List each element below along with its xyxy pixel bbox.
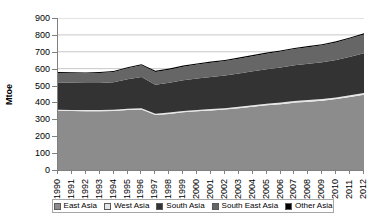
y-tick-mark bbox=[52, 136, 57, 137]
x-tick-mark bbox=[363, 170, 364, 174]
x-tick-mark bbox=[127, 170, 128, 174]
legend-item-south-asia[interactable]: South Asia bbox=[156, 202, 204, 210]
y-tick-mark bbox=[52, 86, 57, 87]
x-tick-mark bbox=[85, 170, 86, 174]
legend-item-other-asia[interactable]: Other Asia bbox=[285, 202, 332, 210]
y-tick-label: 100 bbox=[35, 148, 50, 158]
y-tick-mark bbox=[52, 69, 57, 70]
x-tick-mark bbox=[266, 170, 267, 174]
y-tick-mark bbox=[52, 153, 57, 154]
chart-container: Mtoe 9008007006005004003002001000 199019… bbox=[0, 0, 386, 221]
legend-label: South East Asia bbox=[222, 202, 278, 210]
y-tick-label: 0 bbox=[45, 165, 50, 175]
plot-area bbox=[57, 18, 364, 171]
legend-swatch-icon bbox=[285, 203, 292, 210]
y-tick-label: 800 bbox=[35, 30, 50, 40]
y-tick-mark bbox=[52, 102, 57, 103]
x-tick-mark bbox=[238, 170, 239, 174]
x-tick-mark bbox=[196, 170, 197, 174]
legend-swatch-icon bbox=[54, 203, 61, 210]
legend-swatch-icon bbox=[156, 203, 163, 210]
x-tick-mark bbox=[224, 170, 225, 174]
legend-label: Other Asia bbox=[295, 202, 332, 210]
y-tick-mark bbox=[52, 119, 57, 120]
x-tick-mark bbox=[280, 170, 281, 174]
x-tick-mark bbox=[182, 170, 183, 174]
y-tick-label: 200 bbox=[35, 131, 50, 141]
x-tick-mark bbox=[168, 170, 169, 174]
legend-label: South Asia bbox=[166, 202, 204, 210]
y-tick-label: 700 bbox=[35, 47, 50, 57]
x-tick-mark bbox=[210, 170, 211, 174]
y-tick-label: 500 bbox=[35, 81, 50, 91]
x-tick-mark bbox=[293, 170, 294, 174]
legend-item-south-east-asia[interactable]: South East Asia bbox=[212, 202, 278, 210]
x-tick-mark bbox=[335, 170, 336, 174]
y-tick-label: 300 bbox=[35, 114, 50, 124]
legend-swatch-icon bbox=[212, 203, 219, 210]
x-tick-mark bbox=[307, 170, 308, 174]
x-tick-mark bbox=[113, 170, 114, 174]
legend-item-east-asia[interactable]: East Asia bbox=[54, 202, 97, 210]
y-tick-mark bbox=[52, 18, 57, 19]
y-tick-label: 400 bbox=[35, 97, 50, 107]
x-tick-label: 2012 bbox=[358, 176, 368, 202]
y-tick-mark bbox=[52, 52, 57, 53]
x-tick-mark bbox=[321, 170, 322, 174]
legend-item-west-asia[interactable]: West Asia bbox=[104, 202, 149, 210]
y-axis-title: Mtoe bbox=[2, 72, 16, 118]
legend-label: East Asia bbox=[64, 202, 97, 210]
y-tick-label: 600 bbox=[35, 64, 50, 74]
stacked-area-svg bbox=[58, 18, 364, 170]
legend-swatch-icon bbox=[104, 203, 111, 210]
x-tick-label: 2011 bbox=[344, 176, 354, 202]
x-tick-mark bbox=[71, 170, 72, 174]
y-tick-label: 900 bbox=[35, 13, 50, 23]
chart-legend: East AsiaWest AsiaSouth AsiaSouth East A… bbox=[52, 199, 334, 213]
x-tick-mark bbox=[349, 170, 350, 174]
x-tick-mark bbox=[140, 170, 141, 174]
legend-label: West Asia bbox=[114, 202, 149, 210]
x-tick-mark bbox=[57, 170, 58, 174]
x-tick-mark bbox=[252, 170, 253, 174]
y-tick-mark bbox=[52, 35, 57, 36]
x-tick-mark bbox=[99, 170, 100, 174]
x-tick-mark bbox=[154, 170, 155, 174]
y-axis-tick-labels: 9008007006005004003002001000 bbox=[16, 12, 54, 172]
